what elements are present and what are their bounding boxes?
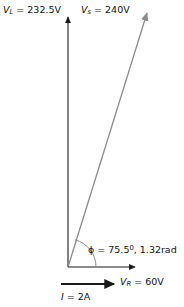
label-resistor-voltage: VR = 60V [120,277,164,288]
label-phase-angle: ϕ = 75.50, 1.32rad [88,245,177,255]
label-vl-unit: V [55,4,62,15]
label-vl-value: 232.5 [27,4,54,15]
vector-vs [68,13,147,267]
label-i-equals: = [64,291,78,302]
label-phi-degrees: 75.5 [108,244,129,255]
phasor-diagram: VL = 232.5V Vs = 240V ϕ = 75.50, 1.32rad… [0,0,184,307]
label-phi-radians: 1.32 [140,244,161,255]
phasor-vector-canvas [0,0,184,307]
label-current: I = 2A [61,292,90,302]
label-phi-rad-unit: rad [161,244,177,255]
label-vs-value: 240 [105,4,123,15]
label-vl-equals: = [13,4,27,15]
label-vr-unit: V [157,276,164,287]
label-vs-unit: V [123,4,130,15]
label-source-voltage: Vs = 240V [81,5,130,16]
label-vs-equals: = [91,4,105,15]
label-vr-equals: = [131,276,145,287]
label-phi-equals: = [94,244,108,255]
label-inductor-voltage: VL = 232.5V [3,5,61,16]
label-vr-value: 60 [145,276,157,287]
label-i-unit: A [84,291,91,302]
